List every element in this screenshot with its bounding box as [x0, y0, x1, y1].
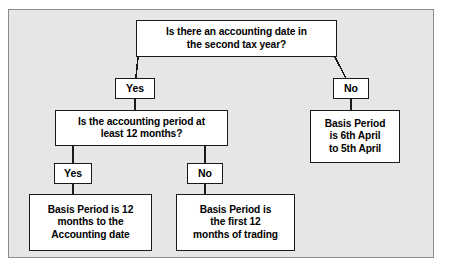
branch-label-yes-1: Yes [115, 78, 155, 99]
branch-label-no-2-text: No [198, 167, 212, 179]
result-april-line1: Basis Period [325, 118, 386, 130]
branch-label-no-1: No [333, 78, 369, 99]
decision-node-accounting-date: Is there an accounting date in the secon… [136, 20, 337, 57]
branch-label-yes-2-text: Yes [64, 167, 82, 179]
decision-q1-line1: Is there an accounting date in [166, 26, 307, 38]
branch-label-yes-1-text: Yes [126, 82, 144, 94]
result-april-line2: is 6th April [325, 130, 386, 142]
decision-node-period-length: Is the accounting period at least 12 mon… [55, 110, 228, 146]
branch-label-no-2: No [187, 163, 223, 184]
result-first-line2: the first 12 [193, 216, 278, 228]
result-node-twelve-months-to-accounting-date: Basis Period is 12 months to the Account… [29, 194, 152, 251]
branch-label-yes-2: Yes [54, 163, 92, 184]
result-twelve-line1: Basis Period is 12 [48, 204, 133, 216]
result-first-line1: Basis Period is [193, 204, 278, 216]
decision-q2-line1: Is the accounting period at [78, 116, 205, 128]
result-first-line3: months of trading [193, 229, 278, 241]
decision-q1-line2: the second tax year? [166, 39, 307, 51]
result-node-april-to-april: Basis Period is 6th April to 5th April [310, 110, 400, 163]
result-node-first-twelve-months-of-trading: Basis Period is the first 12 months of t… [176, 194, 295, 251]
branch-label-no-1-text: No [344, 82, 358, 94]
result-twelve-line3: Accounting date [48, 229, 133, 241]
result-twelve-line2: months to the [48, 216, 133, 228]
decision-q2-line2: least 12 months? [78, 128, 205, 140]
result-april-line3: to 5th April [325, 143, 386, 155]
